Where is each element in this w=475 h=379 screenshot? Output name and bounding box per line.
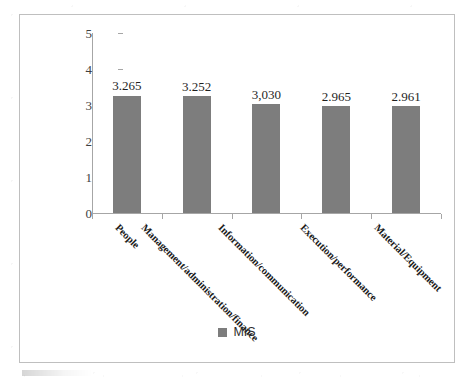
bar-series-mis: 3.265 3.252 3,030 2.965 2.961 — [92, 15, 441, 214]
plot-area: 5 4 3 2 1 0 3.265 3.252 — [20, 15, 454, 362]
bar-value-information: 3,030 — [252, 88, 281, 101]
category-label-information: Information/communication — [216, 222, 312, 318]
chart-frame: 5 4 3 2 1 0 3.265 3.252 — [19, 14, 455, 363]
category-label-execution: Execution/performance — [298, 222, 379, 303]
bar-value-execution: 2.965 — [322, 90, 351, 103]
y-tick-label-5: 5 — [62, 27, 92, 40]
bar-material[interactable] — [392, 106, 420, 213]
x-tick-mark-5 — [441, 214, 442, 219]
bar-execution[interactable] — [322, 106, 350, 213]
y-tick-label-1: 1 — [62, 171, 92, 184]
bar-people[interactable] — [113, 96, 141, 214]
y-axis-ticks: 5 4 3 2 1 0 — [50, 15, 92, 362]
caption-artifact — [22, 370, 92, 376]
bar-value-management: 3.252 — [182, 80, 211, 93]
y-tick-label-2: 2 — [62, 135, 92, 148]
bar-value-material: 2.961 — [391, 90, 420, 103]
legend-swatch-mis — [218, 328, 227, 337]
category-label-material: Material/Equipment — [372, 222, 444, 294]
y-tick-label-4: 4 — [62, 63, 92, 76]
y-tick-label-3: 3 — [62, 99, 92, 112]
bar-value-people: 3.265 — [112, 79, 141, 92]
bar-management[interactable] — [183, 96, 211, 213]
category-label-people: People — [113, 222, 141, 250]
legend-label-mis: MIS — [233, 325, 255, 339]
chart-legend: MIS — [20, 325, 454, 339]
bar-information[interactable] — [252, 104, 280, 213]
y-tick-label-0: 0 — [62, 207, 92, 220]
